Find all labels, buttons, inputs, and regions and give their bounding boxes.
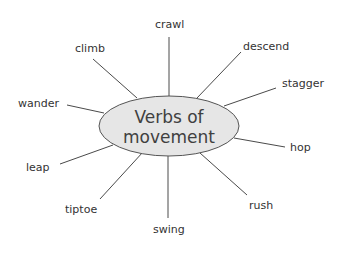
branch-label-rush: rush	[249, 199, 273, 212]
branch-label-climb: climb	[75, 42, 105, 55]
spoke-climb	[93, 59, 137, 98]
spoke-hop	[234, 138, 285, 147]
branch-label-tiptoe: tiptoe	[65, 203, 97, 216]
spoke-tiptoe	[100, 152, 143, 199]
branch-label-hop: hop	[290, 141, 311, 154]
spoke-leap	[60, 145, 113, 164]
mind-map-diagram: Verbs of movement crawl descend stagger …	[0, 0, 337, 254]
spoke-wander	[67, 105, 104, 113]
branch-label-crawl: crawl	[155, 18, 184, 31]
branch-label-leap: leap	[26, 161, 50, 174]
hub-label-line1: Verbs of	[134, 107, 204, 127]
branch-label-descend: descend	[243, 40, 289, 53]
branch-label-wander: wander	[18, 97, 59, 110]
branch-label-swing: swing	[153, 223, 185, 236]
branch-label-stagger: stagger	[282, 77, 325, 90]
spoke-rush	[200, 153, 247, 195]
spoke-descend	[197, 52, 241, 98]
hub: Verbs of movement	[99, 96, 239, 156]
spoke-stagger	[224, 88, 276, 106]
hub-label-line2: movement	[123, 127, 215, 147]
